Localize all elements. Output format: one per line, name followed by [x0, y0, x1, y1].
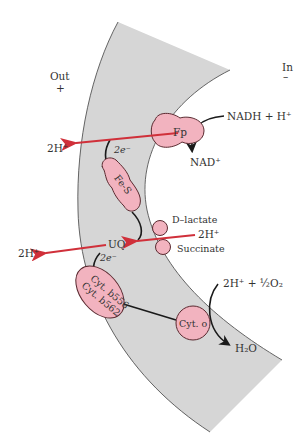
- succinate-dehydrogenase: [156, 240, 171, 255]
- membrane: [78, 22, 282, 432]
- electron-transport-diagram: Out + In – Fp Fe-S UQ Cyt. b556 Cyt. b56…: [0, 0, 300, 444]
- electrons-2-label: 2e⁻: [99, 252, 117, 263]
- outside-sign: +: [56, 82, 65, 94]
- cyt-o-label: Cyt. o: [179, 318, 207, 329]
- proton-out-2-label: 2H⁺: [18, 247, 39, 259]
- proton-out-1-label: 2H⁺: [47, 142, 68, 154]
- inside-sign: –: [283, 70, 288, 82]
- fp-label: Fp: [173, 126, 187, 138]
- nadh-label: NADH + H⁺: [227, 110, 292, 122]
- uq-label: UQ: [108, 238, 126, 250]
- outside-label: Out: [50, 70, 70, 82]
- d-lactate-dehydrogenase: [153, 221, 168, 236]
- d-lactate-label: D–lactate: [172, 214, 218, 225]
- electrons-1-label: 2e⁻: [113, 144, 131, 155]
- water-label: H₂O: [235, 342, 257, 354]
- succinate-label: Succinate: [177, 243, 225, 254]
- proton-in-lactate-label: 2H⁺: [198, 228, 219, 240]
- oxygen-label: 2H⁺ + ½O₂: [223, 277, 283, 289]
- nad-label: NAD⁺: [190, 156, 221, 168]
